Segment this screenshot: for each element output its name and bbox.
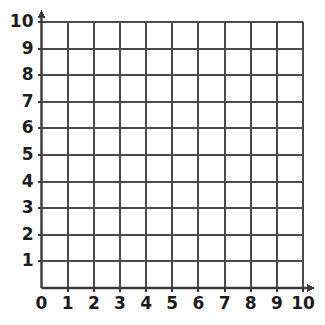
y-tick-label: 10 [10,11,34,31]
y-tick-label: 7 [22,91,34,111]
x-tick-label: 3 [114,293,126,313]
x-tick-label: 2 [88,293,100,313]
y-tick-label: 6 [22,117,34,137]
y-tick-label: 4 [22,171,34,191]
x-tick-label: 6 [192,293,204,313]
x-tick-label: 9 [271,293,283,313]
y-tick-label: 8 [22,64,34,84]
x-tick-label: 10 [291,293,315,313]
x-tick-label: 0 [36,293,48,313]
coordinate-grid-figure: 012345678910 12345678910 [0,0,325,325]
y-axis-arrow-icon [37,10,45,18]
grid-lines [42,22,304,288]
x-tick-label: 1 [62,293,74,313]
x-tick-label: 8 [245,293,257,313]
axes [37,10,315,292]
x-tick-label: 7 [219,293,231,313]
y-tick-label: 5 [22,144,34,164]
x-tick-label: 4 [140,293,152,313]
y-tick-label: 1 [22,250,34,270]
y-tick-label: 9 [22,38,34,58]
x-axis-tick-labels: 012345678910 [36,293,315,313]
x-axis-arrow-icon [307,284,315,292]
x-tick-label: 5 [166,293,178,313]
tick-marks [38,22,304,292]
coordinate-plane-svg: 012345678910 12345678910 [0,0,325,325]
y-tick-label: 3 [22,197,34,217]
y-axis-tick-labels: 12345678910 [10,11,34,270]
y-tick-label: 2 [22,224,34,244]
